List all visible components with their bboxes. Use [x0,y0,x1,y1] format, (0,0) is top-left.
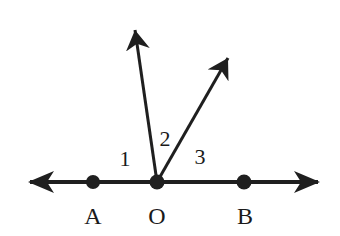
point-a-dot [86,175,100,189]
ray-right [157,58,228,182]
ray-left [135,30,157,182]
angle-label-1: 1 [120,146,131,171]
angle-label-2: 2 [160,126,171,151]
point-label-o: O [148,203,165,229]
point-label-a: A [84,203,102,229]
angle-label-3: 3 [195,144,206,169]
angle-diagram: 1 2 3 A O B [0,0,340,236]
point-o-dot [150,175,165,190]
point-label-b: B [237,203,253,229]
point-b-dot [237,175,252,190]
diagram-canvas: 1 2 3 A O B [0,0,340,236]
